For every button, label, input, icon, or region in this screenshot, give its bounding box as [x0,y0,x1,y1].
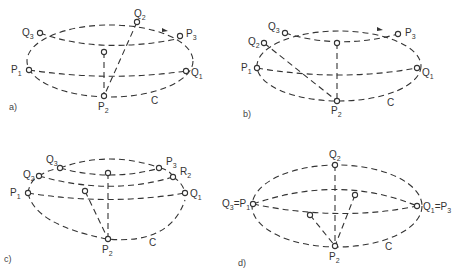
middle-curve [28,193,185,200]
point-p3 [156,165,161,170]
point-p2 [101,93,106,98]
label-q2: Q2 [248,36,260,49]
point-center-lower [307,212,312,217]
point-p1 [25,190,30,195]
point-r2 [170,174,175,179]
label-p3: P3 [186,28,197,41]
ellipse-c [27,25,193,97]
arrow-icon [377,27,383,31]
point-q1-p3 [414,203,419,208]
middle-curve [29,70,186,76]
diagonal-line-right [335,195,355,246]
panel-a: Q3 Q2 P3 P1 Q1 P2 C a) [9,8,203,114]
top-curve [60,159,160,168]
caption-a: a) [9,102,17,112]
figure: Q3 Q2 P3 P1 Q1 P2 C a) Q3 Q2 P3 P1 Q1 P2… [0,0,464,278]
label-p1: P1 [10,187,21,200]
label-p3: P3 [166,156,177,169]
label-q1: Q1 [422,67,434,80]
upper-curve [40,33,182,45]
point-p2 [334,98,339,103]
label-q1: Q1 [191,67,203,80]
label-q3: Q3 [22,27,34,40]
point-q2 [261,40,266,45]
point-center [101,49,106,54]
point-p3 [395,31,400,36]
label-p1: P1 [241,62,252,75]
label-q2: Q2 [134,8,146,21]
point-p1 [254,65,259,70]
panel-d: Q2 Q3=P1 Q1=P3 P2 C d) [222,149,451,268]
lower-curve [28,193,185,240]
label-p2: P2 [102,244,113,257]
label-q3: Q3 [268,21,280,34]
point-q1 [183,68,188,73]
point-q3 [37,30,42,35]
point-q3 [57,165,62,170]
caption-d: d) [238,258,246,268]
label-p1: P1 [11,64,22,77]
point-p1 [26,67,31,72]
panel-b: Q3 Q2 P3 P1 Q1 P2 C b) [241,21,434,119]
panel-c: Q3 Q2 P3 R2 P1 Q1 P2 C c) [4,154,202,264]
diagonal-line [104,22,137,96]
label-p2: P2 [329,251,340,264]
point-q2 [36,173,41,178]
label-q1-eq-p3: Q1=P3 [423,201,451,214]
label-r2: R2 [180,166,191,179]
point-q3 [282,30,287,35]
point-q2 [332,162,337,167]
diagonal-line [264,43,337,101]
arrow-icon [162,28,168,32]
diagonal-line-left [310,215,335,246]
label-p2: P2 [331,105,342,118]
label-q3-eq-p1: Q3=P1 [222,198,250,211]
second-curve [39,176,173,186]
point-p2 [105,236,110,241]
diagonal-line [85,191,108,239]
curve-label-c: C [387,97,394,108]
point-center-upper [105,170,110,175]
curve-label-c: C [151,95,158,106]
point-p2 [332,243,337,248]
label-q2: Q2 [329,149,341,162]
point-center [334,40,339,45]
point-q1 [414,65,419,70]
point-q2 [134,19,139,24]
point-p3 [177,33,182,38]
curve-label-c: C [149,237,156,248]
point-center-upper [352,192,357,197]
label-q3: Q3 [46,154,58,167]
caption-c: c) [4,254,12,264]
caption-b: b) [243,109,251,119]
ellipse-c [252,165,422,247]
label-q1: Q1 [190,188,202,201]
left-arc-upper [39,168,60,176]
label-p2: P2 [98,101,109,114]
label-p3: P3 [405,27,416,40]
label-q2: Q2 [23,169,35,182]
point-q3-p1 [250,201,255,206]
upper-curve [285,33,398,42]
curve-label-c: C [385,241,392,252]
point-center-lower [82,188,87,193]
point-q1 [182,190,187,195]
